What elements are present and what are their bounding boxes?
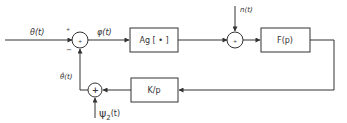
- sum1-minus-sign: −: [66, 46, 72, 54]
- filter-label: F(p): [277, 36, 293, 45]
- disturbance-label: ψ2(t): [99, 107, 120, 122]
- block-diagram: θ(t) + − + φ(t) Ag [ • ] + n(t) F(p) K/p…: [0, 0, 347, 123]
- sum2-center-sign: +: [233, 38, 237, 44]
- nonlinearity-label: Ag [ • ]: [139, 36, 168, 45]
- input-label: θ(t): [30, 28, 44, 37]
- feedback-line: [179, 40, 334, 90]
- noise-label: n(t): [240, 6, 253, 14]
- estimate-feedback-line: [80, 49, 88, 90]
- integrator-label: K/p: [147, 86, 160, 95]
- estimate-label: θ̂(t): [60, 72, 73, 81]
- sum3-center-sign: +: [92, 86, 99, 95]
- sum1-center-sign: +: [78, 38, 82, 44]
- sum1-plus-sign: +: [66, 26, 70, 32]
- error-label: φ(t): [97, 28, 112, 37]
